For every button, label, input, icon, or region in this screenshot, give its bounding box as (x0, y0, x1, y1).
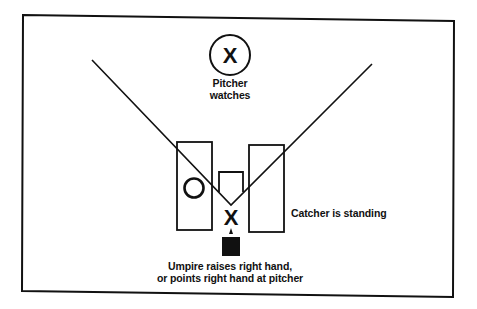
pitcher-label: Pitcher watches (190, 78, 270, 102)
catcher-x-mark: X (224, 205, 239, 230)
batter-o-mark (185, 179, 204, 198)
pitcher-x-mark: X (223, 43, 238, 68)
home-plate (219, 172, 243, 192)
catcher-label: Catcher is standing (291, 208, 387, 220)
umpire-label: Umpire raises right hand, or points righ… (130, 261, 330, 285)
umpire-label-line2: or points right hand at pitcher (130, 273, 330, 285)
pitcher-label-line1: Pitcher (190, 78, 270, 90)
umpire-label-line1: Umpire raises right hand, (130, 261, 330, 273)
umpire-square (222, 237, 240, 256)
pitcher-label-line2: watches (190, 90, 270, 102)
